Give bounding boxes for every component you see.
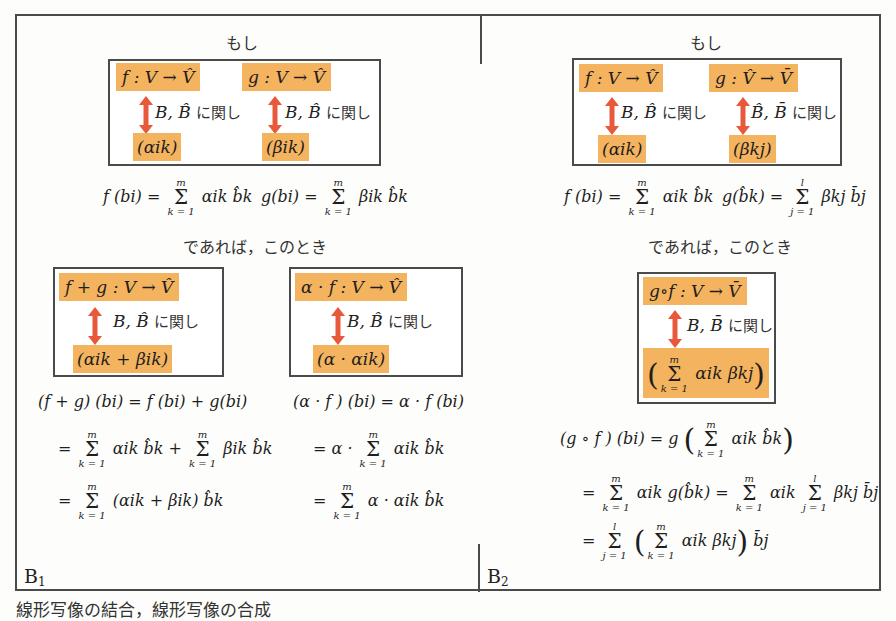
sum-derivation-line-1: (f + g) (bi) = f (bi) + g(bi) bbox=[38, 392, 247, 411]
f-lhs: f (bi) = bbox=[564, 187, 621, 206]
if-label: もし bbox=[226, 30, 258, 54]
composition-derivation-line-2: = mΣk = 1 αik g(b̂k) = mΣk = 1 αik lΣj =… bbox=[582, 474, 878, 513]
scalar-derivation-line-1: (α · f ) (bi) = α · f (bi) bbox=[293, 392, 464, 411]
relation-g: B, B̂ に関し bbox=[285, 101, 371, 122]
g-lhs: g(b̂k) = bbox=[722, 187, 783, 206]
f-rhs: αik b̂k bbox=[202, 187, 253, 206]
sum-bottom: k = 1 bbox=[325, 206, 352, 217]
g-rhs: βkj b̄j bbox=[822, 187, 866, 206]
g-lhs: g(bi) = bbox=[261, 187, 318, 206]
sum-symbol: mΣk = 1 bbox=[628, 178, 655, 217]
matrix-product: (mΣk = 1 αik βkj) bbox=[643, 348, 769, 398]
map-f-plus-g: f + g : V → V̂ bbox=[59, 273, 179, 301]
matrix-beta: (βik) bbox=[262, 133, 309, 161]
relation-text: に関し bbox=[196, 104, 241, 122]
relation-sum: B, B̂ に関し bbox=[113, 310, 199, 331]
map-alpha-f: α · f : V → V̂ bbox=[295, 273, 407, 301]
map-g: g : V̂ → V̄ bbox=[709, 64, 798, 92]
basis-label: B, B̂ bbox=[621, 102, 657, 122]
then-label: であれば，このとき bbox=[648, 234, 792, 258]
f-rhs: αik b̂k bbox=[663, 187, 714, 206]
matrix-sum: (αik + βik) bbox=[73, 345, 172, 373]
map-g: g : V → V̂ bbox=[242, 63, 331, 91]
matrix-alpha: (αik) bbox=[598, 135, 646, 163]
sum-bottom: j = 1 bbox=[790, 206, 814, 217]
panel-label-b2: B2 bbox=[487, 565, 509, 589]
relation-text: に関し bbox=[154, 313, 199, 331]
relation-f: B, B̂ に関し bbox=[621, 101, 707, 122]
definition-g: g(bi) = mΣk = 1 βik b̂k bbox=[261, 178, 408, 217]
sum-symbol: mΣk = 1 bbox=[325, 178, 352, 217]
double-arrow-icon bbox=[88, 307, 102, 345]
composition-derivation-line-1: (g ∘ f ) (bi) = g (mΣk = 1 αik b̂k) bbox=[560, 420, 794, 459]
double-arrow-icon bbox=[605, 97, 619, 135]
double-arrow-icon bbox=[268, 96, 282, 134]
sum-derivation-line-3: = mΣk = 1 (αik + βik) b̂k bbox=[58, 482, 224, 521]
relation-text: に関し bbox=[792, 104, 837, 122]
definition-g: g(b̂k) = lΣj = 1 βkj b̄j bbox=[722, 178, 866, 217]
relation-text: に関し bbox=[662, 104, 707, 122]
g-rhs: βik b̂k bbox=[359, 187, 408, 206]
definition-f: f (bi) = mΣk = 1 αik b̂k bbox=[103, 178, 252, 217]
relation-text: に関し bbox=[388, 313, 433, 331]
basis-label: B, B̄ bbox=[687, 315, 723, 335]
if-label: もし bbox=[690, 30, 722, 54]
f-lhs: f (bi) = bbox=[103, 187, 160, 206]
label-sub: 1 bbox=[38, 575, 46, 589]
map-f: f : V → V̂ bbox=[579, 64, 663, 92]
scalar-derivation-line-2: = α · mΣk = 1 αik b̂k bbox=[313, 430, 444, 469]
double-arrow-icon bbox=[736, 97, 750, 135]
relation-composition: B, B̄ に関し bbox=[687, 314, 773, 335]
panel-divider-top bbox=[480, 14, 482, 64]
sum-symbol: mΣk = 1 bbox=[167, 178, 194, 217]
label-main: B bbox=[487, 565, 501, 587]
basis-label: B, B̂ bbox=[347, 311, 383, 331]
sum-symbol: lΣj = 1 bbox=[790, 178, 814, 217]
composition-derivation-line-3: = lΣj = 1 (mΣk = 1 αik βkj) b̄j bbox=[582, 522, 768, 561]
label-sub: 2 bbox=[501, 575, 509, 589]
matrix-scalar: (α · αik) bbox=[313, 345, 389, 373]
map-f: f : V → V̂ bbox=[116, 63, 200, 91]
double-arrow-icon bbox=[668, 310, 682, 348]
scalar-derivation-line-3: = mΣk = 1 α · αik b̂k bbox=[313, 482, 444, 521]
relation-text: に関し bbox=[728, 317, 773, 335]
sum-bottom: k = 1 bbox=[661, 383, 688, 394]
sum-derivation-line-2: = mΣk = 1 αik b̂k + mΣk = 1 βik b̂k bbox=[58, 430, 272, 469]
relation-g: B̂, B̄ に関し bbox=[751, 101, 837, 122]
sum-bottom: k = 1 bbox=[628, 206, 655, 217]
basis-label: B, B̂ bbox=[155, 102, 191, 122]
panel-label-b1: B1 bbox=[24, 565, 46, 589]
matrix-beta: (βkj) bbox=[729, 135, 776, 163]
double-arrow-icon bbox=[139, 96, 153, 134]
basis-label: B, B̂ bbox=[113, 311, 149, 331]
map-g-of-f: g∘f : V → V̄ bbox=[643, 277, 747, 305]
relation-text: に関し bbox=[326, 104, 371, 122]
panel-divider-bottom bbox=[478, 544, 480, 592]
label-main: B bbox=[24, 565, 38, 587]
relation-f: B, B̂ に関し bbox=[155, 101, 241, 122]
definition-f: f (bi) = mΣk = 1 αik b̂k bbox=[564, 178, 713, 217]
sum-bottom: k = 1 bbox=[167, 206, 194, 217]
matrix-alpha: (αik) bbox=[133, 133, 181, 161]
then-label: であれば，このとき bbox=[183, 234, 327, 258]
double-arrow-icon bbox=[331, 307, 345, 345]
basis-label: B, B̂ bbox=[285, 102, 321, 122]
relation-scalar: B, B̂ に関し bbox=[347, 310, 433, 331]
figure-caption: 線形写像の結合，線形写像の合成 bbox=[16, 596, 271, 621]
basis-label: B̂, B̄ bbox=[751, 102, 787, 122]
